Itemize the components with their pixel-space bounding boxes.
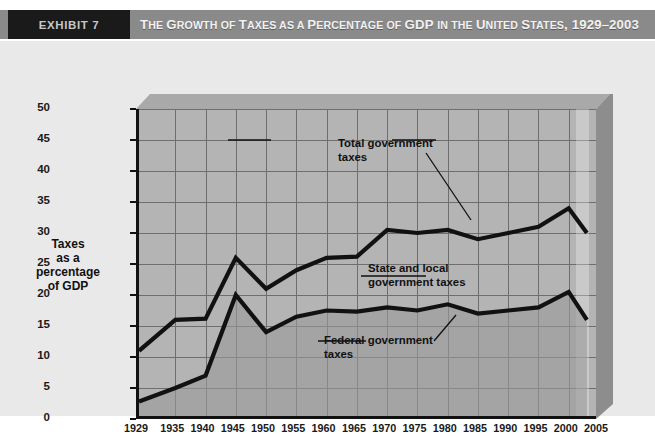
- annotation-federal-government-taxes: Federal government taxes: [324, 334, 433, 361]
- exhibit-number-label: EXHIBIT 7: [39, 19, 99, 31]
- y-axis-tick-label: 50: [10, 101, 50, 113]
- annotation-total-government-taxes: Total government taxes: [338, 137, 433, 164]
- y-axis-tick-label: 45: [10, 132, 50, 144]
- annotation-total-line-1: Total government: [338, 137, 433, 151]
- annotation-state-and-local-government-taxes: State and local government taxes: [368, 262, 466, 289]
- exhibit-title: THE GROWTH OF TAXES AS A PERCENTAGE OF G…: [140, 10, 652, 39]
- y-axis-tick-label: 15: [10, 318, 50, 330]
- y-axis-title-line-1: Taxes: [16, 237, 120, 251]
- chart-3d-top-face: [136, 94, 610, 109]
- y-axis-tick-label: 20: [10, 287, 50, 299]
- exhibit-title-text: THE GROWTH OF TAXES AS A PERCENTAGE OF G…: [140, 17, 639, 32]
- y-axis-tick-label: 35: [10, 194, 50, 206]
- y-axis-tick-label: 40: [10, 163, 50, 175]
- chart-area: Taxes as a percentage of GDP 05101520253…: [0, 41, 655, 416]
- y-axis-tick-label: 30: [10, 225, 50, 237]
- y-axis-tick-label: 25: [10, 256, 50, 268]
- exhibit-figure: EXHIBIT 7 THE GROWTH OF TAXES AS A PERCE…: [0, 0, 655, 438]
- annotation-state-line-2: government taxes: [368, 276, 466, 290]
- exhibit-number-tag: EXHIBIT 7: [8, 10, 130, 39]
- y-axis-tick-label: 5: [10, 380, 50, 392]
- leader-federal-diagonal: [434, 315, 456, 341]
- y-axis-tick-label: 10: [10, 349, 50, 361]
- annotation-state-line-1: State and local: [368, 262, 466, 276]
- figure-caption: [14, 420, 644, 436]
- leader-total-diagonal: [426, 153, 471, 220]
- annotation-total-line-2: taxes: [338, 151, 433, 165]
- annotation-federal-line-1: Federal government: [324, 334, 433, 348]
- chart-3d-right-face: [596, 94, 613, 419]
- annotation-federal-line-2: taxes: [324, 348, 433, 362]
